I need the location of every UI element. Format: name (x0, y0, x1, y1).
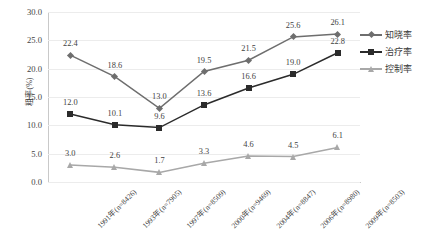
data-point-marker (201, 102, 207, 108)
legend-item-控制率[interactable]: 控制率 (360, 60, 425, 77)
x-tick-label: 2004年(n=8847) (273, 186, 317, 230)
x-tick-label: 1997年(n=8509) (184, 186, 228, 230)
y-tick-label: 10.0 (0, 120, 42, 130)
legend-item-知晓率[interactable]: 知晓率 (360, 26, 425, 43)
data-point-marker (201, 160, 207, 166)
data-point-label: 25.6 (286, 21, 301, 30)
data-point-marker (156, 169, 162, 175)
legend-label: 知晓率 (385, 28, 412, 41)
data-point-marker (335, 50, 341, 56)
legend-swatch (360, 47, 382, 57)
y-tick-label: 30.0 (0, 7, 42, 17)
data-point-label: 18.6 (108, 61, 123, 70)
legend-swatch (360, 64, 382, 74)
data-point-label: 10.1 (108, 109, 123, 118)
data-point-label: 2.6 (110, 151, 120, 160)
data-point-label: 9.6 (154, 112, 164, 121)
line-chart: 粗率(%) 0.05.010.015.020.025.030.0 22.418.… (0, 0, 425, 250)
y-tick-label: 15.0 (0, 92, 42, 102)
data-point-label: 19.0 (286, 58, 301, 67)
data-point-marker (112, 122, 118, 128)
y-axis-ticks: 0.05.010.015.020.025.030.0 (0, 0, 46, 250)
data-point-label: 1.7 (154, 156, 164, 165)
legend: 知晓率治疗率控制率 (360, 26, 425, 77)
legend-item-治疗率[interactable]: 治疗率 (360, 43, 425, 60)
data-point-label: 3.0 (65, 149, 75, 158)
x-tick-label: 2006年(n=8980) (317, 186, 361, 230)
data-point-label: 4.5 (288, 141, 298, 150)
legend-swatch (360, 30, 382, 40)
data-point-marker (246, 85, 252, 91)
x-tick-label: 1993年(n=7905) (139, 186, 183, 230)
x-tick-label: 1991年(n=8426) (94, 186, 138, 230)
y-tick-label: 20.0 (0, 64, 42, 74)
data-point-label: 21.5 (241, 44, 256, 53)
data-point-label: 3.3 (199, 147, 209, 156)
data-point-label: 26.1 (330, 18, 345, 27)
gridline (48, 182, 360, 183)
x-tick-label: 2000年(n=9469) (228, 186, 272, 230)
data-point-label: 22.8 (330, 37, 345, 46)
data-point-label: 13.0 (152, 92, 167, 101)
x-tick-label: 2009年(n=8503) (362, 186, 406, 230)
data-point-label: 6.1 (332, 131, 342, 140)
legend-marker-square-icon (368, 49, 374, 55)
plot-area: 22.418.613.019.521.525.626.112.010.19.61… (48, 12, 360, 182)
data-point-marker (290, 71, 296, 77)
legend-label: 控制率 (385, 62, 412, 75)
data-point-marker (67, 162, 73, 168)
data-point-label: 16.6 (241, 72, 256, 81)
y-tick-label: 5.0 (0, 149, 42, 159)
legend-label: 治疗率 (385, 45, 412, 58)
data-point-marker (156, 125, 162, 131)
data-point-marker (245, 153, 251, 159)
data-point-marker (111, 164, 117, 170)
data-point-label: 19.5 (197, 56, 212, 65)
data-point-label: 12.0 (63, 98, 78, 107)
data-point-label: 4.6 (243, 140, 253, 149)
y-tick-label: 25.0 (0, 35, 42, 45)
data-point-marker (67, 111, 73, 117)
data-point-marker (290, 154, 296, 160)
legend-marker-diamond-icon (367, 31, 374, 38)
y-tick-label: 0.0 (0, 177, 42, 187)
data-point-label: 22.4 (63, 39, 78, 48)
data-point-label: 13.6 (197, 89, 212, 98)
data-point-marker (334, 144, 340, 150)
legend-marker-triangle-icon (368, 66, 374, 72)
